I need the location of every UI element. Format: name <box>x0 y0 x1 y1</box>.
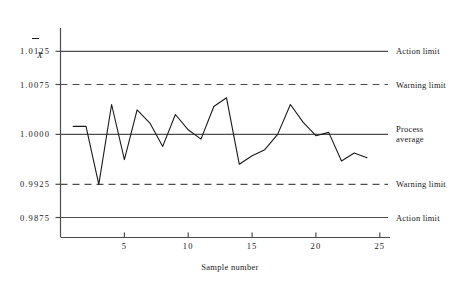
chart-canvas <box>0 0 463 296</box>
x-bar-overbar <box>32 38 39 39</box>
label-lower-action-limit: Action limit <box>396 213 440 223</box>
label-upper-warning-limit: Warning limit <box>396 80 446 90</box>
y-tick-label: 1.0125 <box>0 46 50 56</box>
sample-mean-series <box>73 98 367 185</box>
label-process-average-line2: average <box>396 134 424 144</box>
y-tick-label: 0.9875 <box>0 213 50 223</box>
y-tick-label: 1.0075 <box>0 80 50 90</box>
y-tick-label: 0.9925 <box>0 179 50 189</box>
label-upper-action-limit: Action limit <box>396 46 440 56</box>
x-tick-label: 5 <box>104 241 144 251</box>
y-axis-title: X <box>28 18 43 70</box>
x-tick-label: 20 <box>296 241 336 251</box>
reference-lines <box>61 51 389 217</box>
x-axis-ticks <box>124 233 379 238</box>
label-lower-warning-limit: Warning limit <box>396 179 446 189</box>
x-tick-label: 15 <box>232 241 272 251</box>
label-process-average-line1: Process <box>396 124 424 134</box>
x-tick-label: 10 <box>168 241 208 251</box>
control-chart: X Sample number 1.01251.00751.00000.9925… <box>0 0 463 296</box>
y-tick-label: 1.0000 <box>0 129 50 139</box>
x-axis-title: Sample number <box>165 262 295 272</box>
x-tick-label: 25 <box>360 241 400 251</box>
y-axis-ticks <box>56 51 61 217</box>
label-process-average: Processaverage <box>396 124 424 144</box>
plot-axes <box>61 28 391 238</box>
